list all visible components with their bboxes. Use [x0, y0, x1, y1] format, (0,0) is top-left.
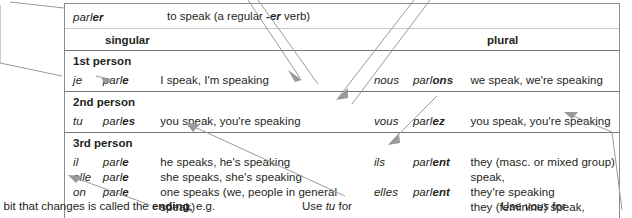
column-header-singular: singular — [105, 34, 397, 46]
table-row-2nd-person-forms: tu parles you speak, you're speaking vou… — [65, 112, 619, 133]
note-use-vous: Use vous for — [501, 200, 566, 212]
table-row-column-headers: singular plural — [65, 29, 619, 51]
leader-line-top-left — [10, 2, 64, 8]
verb-form-tu: parles — [103, 114, 161, 129]
pronoun-ils: ils — [374, 155, 413, 170]
verb-form-elles: parlent — [413, 185, 471, 200]
pronoun-elles: elles — [374, 185, 413, 200]
verb-form-vous: parlez — [413, 114, 471, 129]
pronoun-column-3rd-singular: il elle on — [65, 155, 103, 200]
note-ending: e bit that changes is called the ending,… — [0, 200, 215, 212]
gloss-il: he speaks, he's speaking — [160, 155, 374, 170]
pronoun-nous: nous — [374, 73, 413, 88]
verb-form-il: parle — [103, 155, 161, 170]
note-use-tu: Use tu for — [302, 200, 352, 212]
infinitive-verb: parler — [65, 7, 167, 25]
conjugation-table: parler to speak (a regular -er verb) sin… — [64, 3, 620, 218]
gloss-vous: you speak, you're speaking — [470, 114, 619, 129]
verb-column-3rd-plural: parlent x parlent — [413, 155, 471, 200]
gloss-nous: we speak, we're speaking — [470, 73, 619, 88]
gloss-ils-line2: they're speaking — [470, 185, 619, 200]
verb-form-on: parle — [103, 185, 161, 200]
person-label-2nd: 2nd person — [73, 96, 135, 108]
person-label-row-1: 1st person — [65, 51, 619, 71]
column-header-plural: plural — [439, 34, 518, 46]
pronoun-column-3rd-plural: ils x elles — [374, 155, 413, 200]
table-row-infinitive: parler to speak (a regular -er verb) — [65, 4, 619, 29]
pronoun-tu: tu — [65, 114, 103, 129]
gloss-je: I speak, I'm speaking — [160, 73, 374, 88]
person-label-1st: 1st person — [73, 55, 131, 67]
person-label-row-3: 3rd person — [65, 133, 619, 153]
pronoun-elle: elle — [73, 170, 103, 185]
gloss-tu: you speak, you're speaking — [160, 114, 374, 129]
pronoun-il: il — [73, 155, 103, 170]
gloss-ils-line1: they (masc. or mixed group) speak, — [470, 155, 619, 185]
table-row-1st-person-forms: je parle I speak, I'm speaking nous parl… — [65, 71, 619, 92]
verb-form-ils: parlent — [413, 155, 471, 170]
verb-form-nous: parlons — [413, 73, 471, 88]
verb-form-je: parle — [103, 73, 161, 88]
pronoun-je: je — [65, 73, 103, 88]
gloss-elle: she speaks, she's speaking — [160, 170, 374, 185]
pronoun-vous: vous — [374, 114, 413, 129]
person-label-row-2: 2nd person — [65, 92, 619, 112]
pronoun-on: on — [73, 185, 103, 200]
verb-column-3rd-singular: parle parle parle — [103, 155, 161, 200]
verb-form-elle: parle — [103, 170, 161, 185]
person-label-3rd: 3rd person — [73, 137, 132, 149]
infinitive-gloss: to speak (a regular -er verb) — [167, 10, 619, 22]
leader-line-left-lower — [0, 63, 62, 76]
